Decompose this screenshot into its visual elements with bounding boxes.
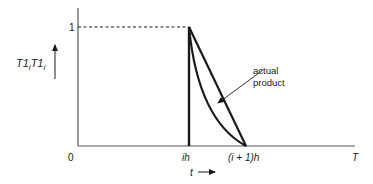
tick-ih-label: ih [182,152,190,163]
tick-one-label: 1 [69,22,75,33]
y-label-part2: T1 [31,57,44,69]
tick-next-label: (i + 1)h [228,152,260,163]
linear-ramp-line [189,27,246,146]
time-variable-label: t [190,167,194,178]
y-axis-label: T1iT1i [16,57,45,72]
origin-label: 0 [68,152,74,163]
y-label-part1: T1 [16,57,29,69]
diagram-canvas: 1 T1iT1i 0 ih (i + 1)h T t actual produc… [0,0,373,184]
y-label-sub2: i [43,63,45,72]
x-axis-end-label: T [352,152,359,163]
annotation-line2: product [253,77,285,88]
annotation-line1: actual [253,65,278,76]
